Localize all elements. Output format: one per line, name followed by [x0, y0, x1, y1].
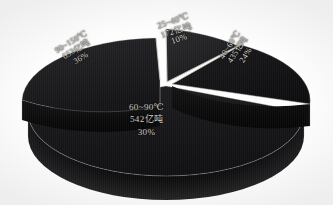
- pie-chart-figure: 90~150℃ 653亿吨 36% 25~40℃ 172亿吨 10% 40~60…: [0, 0, 333, 205]
- pie-chart-svg: [0, 0, 333, 205]
- pie-slice-90-150[interactable]: [22, 38, 160, 132]
